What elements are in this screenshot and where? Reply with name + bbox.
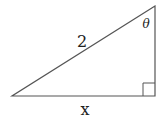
- right-triangle-diagram: 2 θ x: [0, 0, 163, 120]
- angle-theta-label: θ: [142, 17, 150, 31]
- right-angle-marker: [143, 83, 155, 96]
- base-label: x: [80, 100, 89, 119]
- hypotenuse-label: 2: [77, 32, 87, 51]
- triangle-outline: [12, 6, 155, 96]
